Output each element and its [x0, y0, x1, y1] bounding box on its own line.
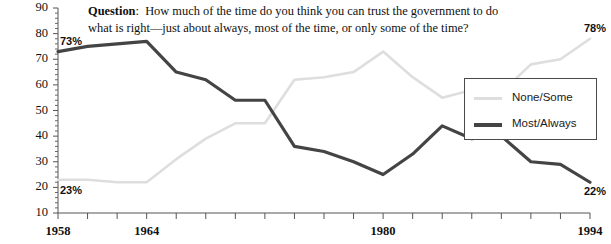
legend-swatch-none-some — [474, 97, 502, 100]
start-none-some: 23% — [60, 184, 82, 196]
x-axis-tick-label: 1980 — [359, 224, 407, 239]
x-axis-tick-label: 1958 — [34, 224, 82, 239]
legend-label-none-some: None/Some — [512, 91, 573, 103]
x-axis-tick-label: 1964 — [123, 224, 171, 239]
y-axis-ticks — [53, 8, 58, 213]
start-most-always: 73% — [60, 35, 82, 47]
y-axis-tick-label: 80 — [22, 26, 48, 41]
y-axis-tick-label: 10 — [22, 205, 48, 220]
end-none-some: 78% — [584, 22, 606, 34]
y-axis-tick-label: 40 — [22, 128, 48, 143]
legend-label-most-always: Most/Always — [512, 117, 577, 129]
legend-swatch-most-always — [474, 123, 502, 127]
end-most-always: 22% — [584, 185, 606, 197]
legend-item-none-some: None/Some — [474, 91, 594, 105]
y-axis-tick-label: 30 — [22, 154, 48, 169]
x-axis-ticks — [58, 213, 590, 219]
y-axis-tick-label: 60 — [22, 77, 48, 92]
y-axis-tick-label: 50 — [22, 103, 48, 118]
y-axis-tick-label: 70 — [22, 51, 48, 66]
x-axis-tick-label: 1994 — [566, 224, 611, 239]
y-axis-tick-label: 90 — [22, 0, 48, 15]
legend: None/Some Most/Always — [464, 78, 597, 140]
y-axis-tick-label: 20 — [22, 179, 48, 194]
legend-item-most-always: Most/Always — [474, 117, 594, 131]
